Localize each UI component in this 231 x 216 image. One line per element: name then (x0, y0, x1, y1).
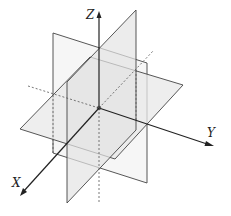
z-arrow-icon (97, 11, 102, 18)
coordinate-planes-diagram: Z Y X (0, 0, 231, 216)
diagram-canvas: Z Y X (0, 0, 231, 216)
y-arrow-icon (205, 141, 215, 146)
z-axis-label: Z (85, 8, 95, 22)
y-axis-label: Y (207, 126, 216, 140)
x-axis-label: X (11, 176, 21, 190)
